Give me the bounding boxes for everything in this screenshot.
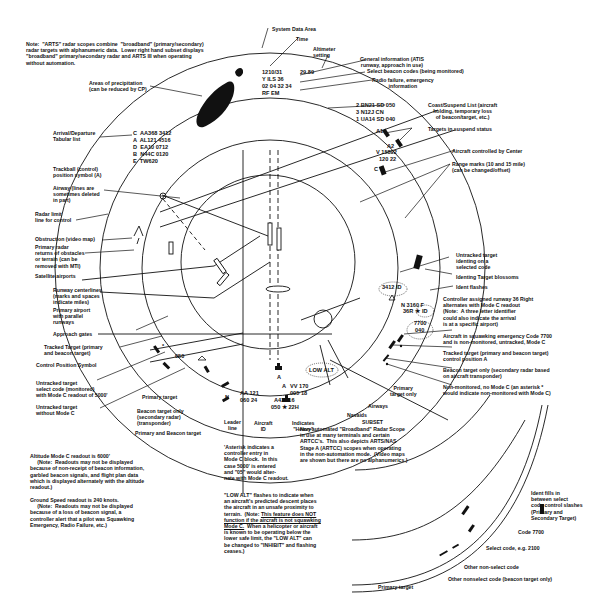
subset-primary-target-label: Primary target: [378, 584, 413, 590]
center-aircraft-line2: 120 22: [379, 156, 396, 163]
ident-3412-tag: 3412 ID: [382, 284, 402, 291]
asterisk-note: 'Asterisk indicates a controller entry i…: [224, 444, 289, 481]
coast-list-row: 2 BN21 SD 050: [356, 102, 395, 109]
tabular-list-label: Arrival/Departure Tabular list: [53, 130, 95, 142]
emergency-label: Aircraft in squawking emergency Code 770…: [443, 333, 552, 345]
center-aircraft-label: Aircraft controlled by Center: [452, 148, 522, 154]
precipitation-area: [196, 68, 243, 127]
tracked-star: *: [162, 343, 164, 350]
subset-title: SUBSET: [362, 419, 383, 425]
runway-centerlines-label: Runway centerlines (marks and spaces ind…: [53, 287, 102, 306]
aa121-line2: 060 24: [240, 397, 257, 404]
id-tag: ID: [422, 308, 428, 315]
untracked-select-label: Untracked target select code (monitored)…: [36, 380, 108, 399]
altitude-note: Altitude Mode C readout is 6000' (Note: …: [30, 453, 144, 490]
vv170-line2: 005 18: [290, 390, 307, 397]
a42b-line2: 050 ★ 22H: [271, 404, 299, 411]
alt-040-tag: 040: [415, 327, 424, 334]
scope-outer-ring: [55, 53, 485, 483]
center-aircraft-line1: V 15892: [376, 149, 397, 156]
untracked-no-modec-label: Untracked target without Mode C: [36, 404, 77, 416]
suspend-label: Targets in suspend status: [428, 126, 492, 132]
airways-label: Airways: [368, 403, 388, 409]
precipitation-label: Areas of precipitation (can be reduced b…: [89, 80, 147, 92]
beacon-only-label: Beacon target only (secondary radar base…: [443, 367, 550, 379]
trackball-label: Trackball (control) position symbol (A): [53, 166, 101, 178]
primary-only-label: Primary target only: [390, 385, 417, 397]
vv170-line1: VV 170: [290, 383, 308, 390]
select-codes-label: Select beacon codes (being monitored): [367, 68, 464, 74]
tracked-target-label: Tracked Target (primary and beacon targe…: [44, 344, 103, 356]
navaids-label: Navaids: [347, 412, 367, 418]
ident-fills-label: Ident fills in between select code contr…: [531, 490, 583, 521]
radio-failure-value: RF EM: [262, 90, 279, 97]
beacon-only-bottom-label: Beacon target only (secondary radar) (tr…: [137, 408, 184, 427]
system-data-area-label: System Data Area: [272, 26, 316, 32]
center-aircraft-pos: C: [374, 166, 378, 173]
tabular-list-row: E TW620: [133, 158, 158, 165]
low-alt-tag: LOW ALT: [309, 367, 334, 374]
tabular-list-row: C AA368 3412: [133, 130, 171, 137]
ground-speed-note: Ground Speed readout is 240 knots. (Note…: [30, 497, 134, 528]
aircraft-id-label: Aircraft ID: [254, 420, 272, 432]
time-label: Time: [296, 36, 308, 42]
primary-target-label: Primary target: [142, 394, 177, 400]
coast-list-row: 3 N12J CN: [356, 109, 384, 116]
tracked-a-label: Tracked target (primary and beacon targe…: [443, 350, 549, 362]
primary-returns-label: Primary radar returns of obstacles or te…: [35, 244, 85, 269]
runway-36r-tag: 36R ★: [403, 308, 420, 315]
arts-note: Note: "ARTS" radar scopes combine "broad…: [26, 41, 204, 66]
radar-limit-label: Radar limit line for control: [35, 211, 71, 223]
coast-list-row: 1 UA14 SD 040: [356, 116, 395, 123]
other-non-select-label: Other non-select code: [464, 564, 519, 570]
low-alt-note: "LOW ALT" flashes to indicate when an ai…: [224, 492, 321, 554]
satellite-airports-label: Satellite airports: [35, 273, 76, 279]
airway-label: Airway (lines are sometimes deleted in p…: [53, 185, 100, 204]
leader-n: N: [225, 394, 229, 401]
a42b-a-mark: A: [282, 383, 286, 390]
time-value: 1210/31: [262, 69, 282, 76]
range-ring-5: [181, 175, 355, 349]
beacon-codes-value: 02 04 32 34: [262, 83, 292, 90]
select-code-label: Select code, e.g. 2100: [486, 545, 540, 551]
aa121-line1: AA 121: [240, 390, 259, 397]
altimeter-value: 29.89: [300, 69, 314, 76]
a-mark: A: [277, 374, 281, 381]
a42b-line1: A42B16: [274, 397, 295, 404]
coast-list-label: Coast/Suspend List (aircraft holding, te…: [428, 102, 497, 121]
general-info-value: Y ILS 36: [262, 76, 284, 83]
altimeter-label: Altimeter setting: [313, 46, 336, 58]
subset-text: Non-automated "Broadband" Radar Scope in…: [300, 426, 408, 463]
leader-line-label: Leader line: [224, 419, 241, 431]
runway-assigned-label: Controller assigned runway 36 Right alte…: [443, 296, 533, 327]
obstruction-label: Obstruction (video map): [35, 236, 95, 242]
untracked-ident-label: Untracked target identing on a selected …: [456, 252, 497, 271]
approach-gates-label: Approach gates: [53, 331, 92, 337]
tabular-list-row: A AL121 4516: [133, 137, 171, 144]
control-position-label: Control Position Symbol: [36, 362, 97, 368]
code-7700-tag: 7700: [414, 320, 426, 327]
tabular-list-row: B N44C 0120: [133, 151, 168, 158]
primary-beacon-label: Primary and Beacon target: [135, 430, 201, 436]
ident-flashes-label: Ident flashes: [456, 284, 488, 290]
suspend-a1: A1: [376, 128, 383, 135]
primary-airport-label: Primary airport with parallel runways: [53, 307, 90, 326]
non-monitored-label: Non-monitored, no Mode C (an asterisk * …: [443, 384, 551, 396]
general-info-label: General information (ATIS runway, approa…: [360, 56, 424, 68]
tabular-list-row: D EA10 0712: [133, 144, 168, 151]
alt-050: 050: [175, 353, 184, 360]
blossoms-label: Identing Target blossoms: [456, 274, 519, 280]
code-7700-label: Code 7700: [518, 529, 544, 535]
radio-failure-label: Radio failure, emergency information: [372, 77, 434, 89]
range-marks-label: Range marks (10 and 15 mile) (can be cha…: [452, 161, 525, 173]
other-nonselect-beacon-label: Other nonselect code (beacon target only…: [448, 576, 552, 582]
